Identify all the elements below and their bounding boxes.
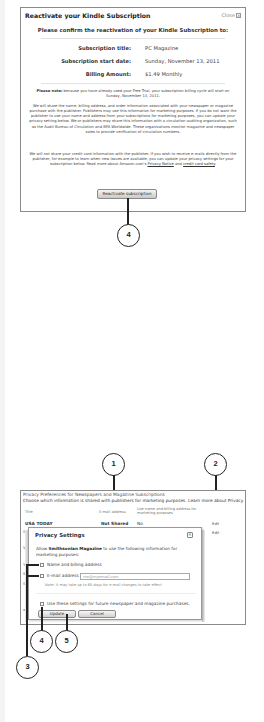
update-button[interactable]: Update <box>38 610 76 618</box>
and-text: and <box>174 162 183 166</box>
divider <box>41 83 225 84</box>
edit-link[interactable]: Edit <box>212 530 219 535</box>
callout-leader-line <box>26 564 28 656</box>
note-text: because you have already used your Free … <box>62 89 229 98</box>
row-name-billing-status: No <box>137 521 143 526</box>
divider <box>36 593 196 594</box>
callout-2: 2 <box>204 453 227 476</box>
close-icon: × <box>236 13 241 18</box>
callout-3: 3 <box>16 656 39 679</box>
column-header-email: E-mail address <box>99 510 126 514</box>
row-title: USA TODAY <box>25 521 53 526</box>
field-label: Subscription start date: <box>61 58 131 64</box>
period: . <box>215 162 216 166</box>
row-email-status: Not Shared <box>101 521 128 526</box>
email-checkbox[interactable] <box>40 574 44 578</box>
edit-link[interactable]: Edit <box>212 521 219 526</box>
callout-4-bottom: 4 <box>30 630 53 653</box>
callout-4-top: 4 <box>117 224 140 247</box>
close-button[interactable]: Close × <box>221 12 241 18</box>
field-value: PC Magazine <box>145 45 178 51</box>
email-label: E-mail address <box>47 573 79 578</box>
close-icon[interactable]: × <box>187 532 193 538</box>
page-left-edge <box>0 0 5 722</box>
panel-description: Choose which information is shared with … <box>23 498 243 503</box>
name-billing-label: Name and billing address <box>47 562 102 567</box>
credit-card-paragraph: We will not share your credit card infor… <box>29 152 237 167</box>
field-value: Sunday, November 13, 2011 <box>145 58 219 64</box>
sharing-paragraph: We will share the name, billing address,… <box>29 104 237 135</box>
reactivate-subscription-dialog: Reactivate your Kindle Subscription Clos… <box>20 7 246 212</box>
allow-prefix: Allow <box>36 546 49 551</box>
dialog-title: Reactivate your Kindle Subscription <box>25 12 151 19</box>
privacy-notice-link[interactable]: Privacy Notice <box>147 162 173 166</box>
field-label: Billing Amount: <box>86 71 131 77</box>
field-value: $1.49 Monthly <box>145 71 182 77</box>
note-label: Please note: <box>37 89 63 93</box>
callout-5: 5 <box>55 630 78 653</box>
close-label: Close <box>221 12 235 18</box>
column-header-name-billing: Use name and billing address for marketi… <box>137 507 207 516</box>
subscription-start-date-row: Subscription start date: Sunday, Novembe… <box>21 58 245 66</box>
future-purchases-label: Use these settings for future newspaper … <box>47 601 190 606</box>
allow-text: Allow Smithsonian Magazine to use the fo… <box>36 546 196 557</box>
divider <box>41 38 225 39</box>
publication-name: Smithsonian Magazine <box>49 546 102 551</box>
cancel-button[interactable]: Cancel <box>78 610 116 618</box>
future-purchases-checkbox[interactable] <box>40 602 44 606</box>
confirm-heading: Please confirm the reactivation of your … <box>21 27 245 33</box>
billing-amount-row: Billing Amount: $1.49 Monthly <box>21 71 245 79</box>
name-billing-checkbox[interactable] <box>40 563 44 567</box>
panel-title: Privacy Preferences for Newspapers and M… <box>23 492 165 497</box>
popup-title: Privacy Settings <box>35 532 85 538</box>
email-change-note: Note: it may take up to 60 days for e-ma… <box>45 583 162 587</box>
email-input[interactable]: me@myemail.com <box>80 573 190 580</box>
popup-shadow <box>202 530 205 622</box>
subscription-title-row: Subscription title: PC Magazine <box>21 45 245 53</box>
billing-note: Please note: because you have already us… <box>31 89 235 99</box>
callout-1: 1 <box>102 453 125 476</box>
credit-card-safety-link[interactable]: credit card safety <box>183 162 215 166</box>
column-header-title: Title <box>25 510 33 514</box>
dialog-header: Reactivate your Kindle Subscription Clos… <box>25 12 241 22</box>
field-label: Subscription title: <box>78 45 131 51</box>
